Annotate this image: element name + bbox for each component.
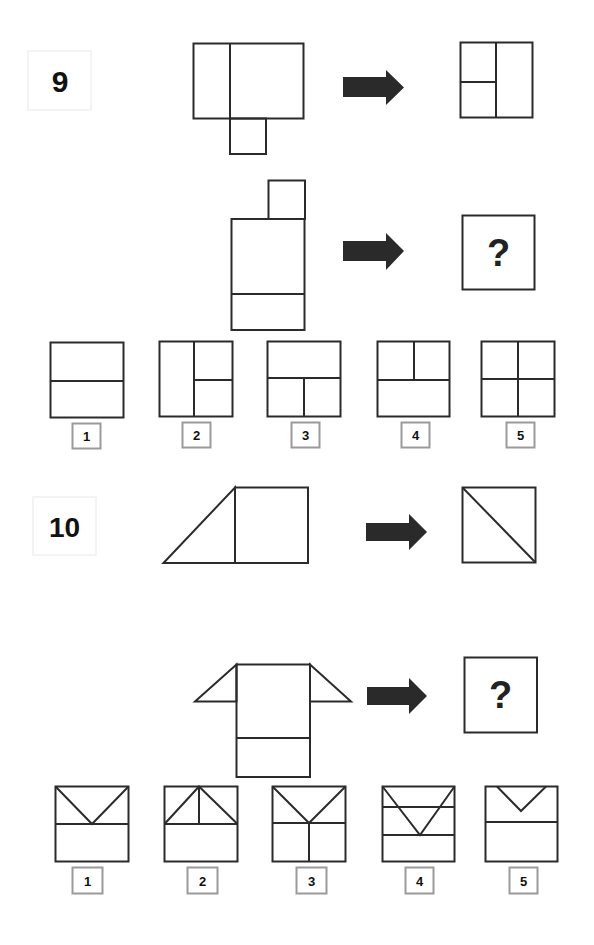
puzzle-number-10: 10 [33, 497, 96, 555]
answer-option-2[interactable]: 2 [165, 787, 238, 894]
example-output-figure [463, 488, 536, 563]
question-input-figure [195, 665, 351, 778]
arrow-right-icon [367, 678, 427, 714]
answer-options: 1 2 [51, 342, 555, 449]
answer-option-2[interactable]: 2 [160, 342, 233, 448]
svg-text:3: 3 [308, 874, 315, 889]
svg-text:1: 1 [84, 874, 91, 889]
option-label-2[interactable]: 2 [188, 868, 218, 894]
answer-placeholder-box: ? [465, 658, 538, 733]
option-label-4[interactable]: 4 [402, 423, 430, 448]
answer-option-5[interactable]: 5 [486, 787, 558, 894]
svg-text:2: 2 [199, 874, 206, 889]
svg-text:5: 5 [520, 874, 527, 889]
puzzle-9: 9 ? [28, 43, 555, 449]
answer-option-1[interactable]: 1 [56, 787, 129, 894]
option-label-5[interactable]: 5 [510, 868, 538, 894]
answer-option-3[interactable]: 3 [268, 342, 341, 448]
svg-text:?: ? [489, 674, 512, 716]
option-label-2[interactable]: 2 [183, 423, 211, 448]
option-label-3[interactable]: 3 [292, 423, 320, 448]
svg-text:2: 2 [193, 428, 200, 443]
svg-text:1: 1 [83, 429, 90, 444]
answer-option-1[interactable]: 1 [51, 343, 124, 449]
svg-text:3: 3 [302, 428, 309, 443]
question-input-figure [232, 181, 306, 331]
svg-text:?: ? [487, 232, 510, 274]
option-label-3[interactable]: 3 [297, 868, 327, 894]
answer-option-4[interactable]: 4 [378, 342, 450, 448]
arrow-right-icon [343, 233, 404, 270]
answer-option-3[interactable]: 3 [273, 787, 346, 894]
example-output-figure [461, 43, 533, 118]
answer-placeholder-box: ? [463, 216, 535, 290]
answer-option-5[interactable]: 5 [482, 342, 555, 448]
svg-text:9: 9 [52, 65, 69, 98]
puzzle-number-9: 9 [28, 51, 91, 110]
arrow-right-icon [343, 70, 404, 105]
puzzle-10: 10 ? [33, 488, 558, 894]
svg-text:4: 4 [416, 874, 424, 889]
svg-text:10: 10 [49, 512, 80, 543]
option-label-4[interactable]: 4 [406, 868, 434, 894]
example-input-figure [194, 44, 304, 155]
svg-text:4: 4 [412, 428, 420, 443]
option-label-1[interactable]: 1 [73, 424, 101, 449]
svg-text:5: 5 [517, 428, 524, 443]
example-input-figure [164, 488, 309, 564]
option-label-1[interactable]: 1 [73, 868, 103, 894]
answer-options: 1 2 [56, 787, 558, 894]
option-label-5[interactable]: 5 [507, 423, 535, 448]
arrow-right-icon [366, 514, 427, 550]
answer-option-4[interactable]: 4 [383, 787, 455, 894]
